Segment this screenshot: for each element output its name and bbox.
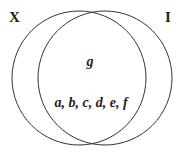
region-label-g: g xyxy=(86,54,94,69)
region-label-a-to-f: a, b, c, d, e, f xyxy=(54,95,128,110)
set-i-circle xyxy=(38,11,172,145)
set-x-label: X xyxy=(9,9,20,25)
set-x-circle xyxy=(12,11,146,145)
set-i-label: I xyxy=(165,9,171,25)
venn-diagram: X I g a, b, c, d, e, f xyxy=(0,0,185,155)
